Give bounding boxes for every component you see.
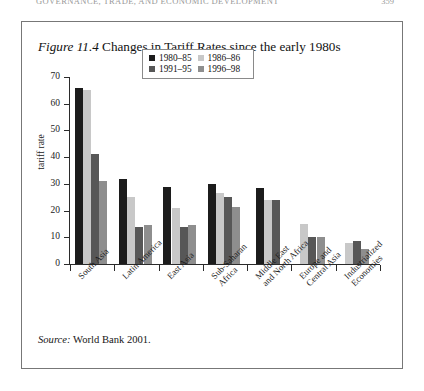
y-tick-10 — [64, 237, 70, 238]
source-text: World Bank 2001. — [73, 334, 151, 345]
running-head-title: GOVERNANCE, TRADE, AND ECONOMIC DEVELOPM… — [36, 0, 279, 6]
bar — [216, 193, 224, 264]
bar — [91, 154, 99, 264]
legend-swatch-icon — [198, 66, 204, 72]
y-tick-label-60: 60 — [40, 99, 60, 109]
chart-legend: 1980–851986–861991–951996–98 — [142, 49, 254, 79]
y-tick-20 — [64, 211, 70, 212]
legend-item: 1996–98 — [198, 64, 247, 75]
y-tick-60 — [64, 104, 70, 105]
x-tick-1 — [114, 265, 115, 271]
page-running-head: GOVERNANCE, TRADE, AND ECONOMIC DEVELOPM… — [0, 0, 424, 8]
y-tick-label-10: 10 — [40, 232, 60, 242]
x-tick-end — [380, 265, 381, 271]
page-number: 359 — [381, 0, 394, 6]
y-tick-40 — [64, 157, 70, 158]
x-tick-3 — [203, 265, 204, 271]
legend-swatch-icon — [149, 55, 155, 61]
legend-item: 1980–85 — [149, 53, 198, 64]
figure-source: Source: World Bank 2001. — [38, 334, 151, 345]
x-tick-5 — [291, 265, 292, 271]
y-tick-50 — [64, 130, 70, 131]
y-tick-label-20: 20 — [40, 206, 60, 216]
legend-label: 1980–85 — [159, 53, 192, 63]
legend-table: 1980–851986–861991–951996–98 — [149, 53, 246, 75]
y-tick-70 — [64, 77, 70, 78]
x-tick-2 — [159, 265, 160, 271]
y-tick-label-70: 70 — [40, 72, 60, 82]
legend-swatch-icon — [198, 55, 204, 61]
legend-item: 1986–86 — [198, 53, 247, 64]
legend-label: 1996–98 — [208, 64, 241, 74]
source-label: Source: — [38, 334, 71, 345]
legend-swatch-icon — [149, 66, 155, 72]
bar — [208, 184, 216, 264]
legend-item: 1991–95 — [149, 64, 198, 75]
bar — [75, 88, 83, 264]
x-tick-6 — [336, 265, 337, 271]
bar — [163, 187, 171, 264]
x-tick-0 — [70, 265, 71, 271]
x-tick-4 — [247, 265, 248, 271]
y-tick-30 — [64, 184, 70, 185]
legend-row: 1980–851986–86 — [149, 53, 246, 64]
bar — [127, 197, 135, 264]
y-tick-label-0: 0 — [40, 259, 60, 269]
bar — [172, 208, 180, 264]
bar — [119, 179, 127, 264]
legend-label: 1986–86 — [208, 53, 241, 63]
y-axis-title: tariff rate — [36, 122, 46, 182]
legend-label: 1991–95 — [159, 64, 192, 74]
legend-row: 1991–951996–98 — [149, 64, 246, 75]
bar — [256, 188, 264, 264]
figure-container: Figure 11.4 Changes in Tariff Rates sinc… — [21, 21, 403, 369]
bar — [345, 243, 353, 264]
bar — [83, 90, 91, 264]
